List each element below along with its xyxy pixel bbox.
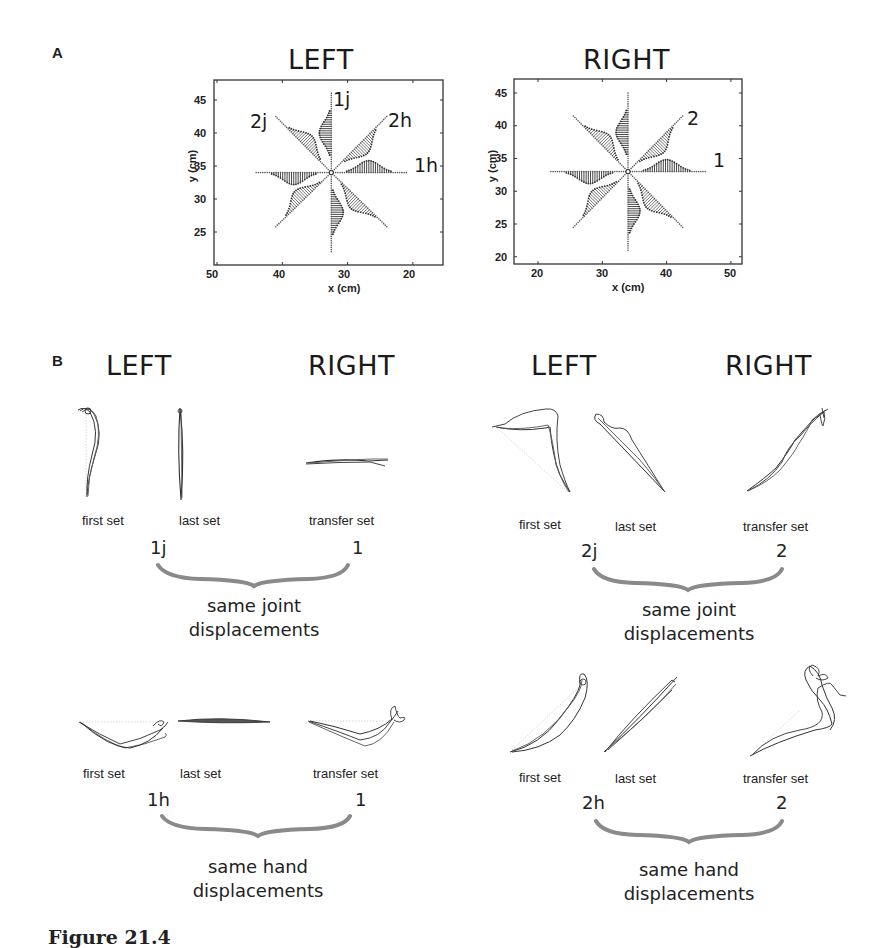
figure-caption: Figure 21.4: [48, 926, 171, 948]
group4-caption-line2: displacements: [589, 882, 789, 906]
group4-caption-line1: same hand: [589, 858, 789, 882]
